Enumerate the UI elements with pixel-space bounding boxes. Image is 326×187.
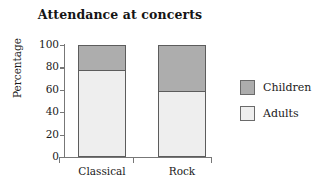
- x-axis-line: [59, 157, 212, 158]
- y-axis-tick-mark: [60, 135, 65, 136]
- chart-title: Attendance at concerts: [0, 7, 240, 22]
- chart-legend: ChildrenAdults: [240, 76, 324, 128]
- legend-item[interactable]: Children: [240, 76, 324, 98]
- legend-label: Adults: [263, 107, 299, 120]
- chart-container: Attendance at concerts Percentage 020406…: [0, 0, 326, 187]
- legend-label: Children: [263, 81, 311, 94]
- y-axis-tick-mark: [60, 90, 65, 91]
- stacked-bar[interactable]: [78, 45, 126, 157]
- legend-swatch-icon: [240, 106, 255, 121]
- y-axis-label: Percentage: [11, 28, 23, 108]
- bar-segment-children[interactable]: [159, 46, 205, 92]
- y-axis-tick-mark: [60, 112, 65, 113]
- bar-segment-children[interactable]: [79, 46, 125, 71]
- y-axis-tick-label: 80: [46, 60, 59, 73]
- y-axis-tick-mark: [60, 45, 65, 46]
- y-axis-tick-mark: [60, 157, 65, 158]
- y-axis-tick-label: 20: [46, 128, 59, 141]
- plot-area: 020406080100 ClassicalRock: [64, 45, 212, 157]
- legend-swatch-icon: [240, 80, 255, 95]
- y-axis-tick-label: 60: [46, 83, 59, 96]
- legend-item[interactable]: Adults: [240, 102, 324, 124]
- y-axis-tick-mark: [60, 67, 65, 68]
- x-axis-category-label: Rock: [137, 165, 227, 177]
- y-axis-tick-label: 40: [46, 105, 59, 118]
- stacked-bar[interactable]: [158, 45, 206, 157]
- x-axis-tick: [133, 157, 134, 163]
- bar-segment-adults[interactable]: [79, 71, 125, 156]
- x-axis-category-label: Classical: [57, 165, 147, 177]
- bar-segment-adults[interactable]: [159, 92, 205, 156]
- x-axis-tick: [211, 157, 212, 163]
- y-axis-tick-label: 100: [39, 38, 59, 51]
- y-axis-tick-label: 0: [52, 150, 59, 163]
- x-axis-tick: [59, 157, 60, 163]
- y-axis-line: [64, 44, 65, 157]
